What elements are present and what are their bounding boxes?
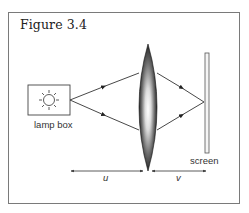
u-label: u (103, 172, 109, 183)
convex-lens (139, 44, 157, 171)
screen (205, 53, 209, 153)
light-rays (70, 73, 204, 130)
screen-label: screen (190, 155, 219, 166)
lamp-box-label: lamp box (34, 119, 73, 130)
v-label: v (176, 172, 182, 183)
optics-diagram: lamp box screen u v (0, 0, 249, 213)
lamp-box (28, 85, 70, 115)
